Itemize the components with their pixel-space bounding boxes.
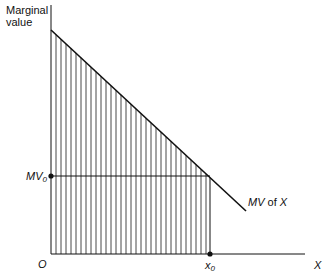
origin-label: O <box>38 258 47 270</box>
y-axis-label: Marginal value <box>6 4 48 28</box>
mv0-label: MV0 <box>26 170 47 186</box>
mv-curve <box>51 30 246 211</box>
curve-label: MV of X <box>248 196 287 208</box>
y-axis-label-line2: value <box>6 16 48 28</box>
x0-point <box>207 251 212 256</box>
mv0-point <box>48 173 53 178</box>
x0-label: x0 <box>205 259 215 274</box>
diagram-canvas <box>0 0 330 274</box>
y-axis-label-line1: Marginal <box>6 4 48 16</box>
marginal-value-diagram: Marginal value MV0 O x0 X MV of X <box>0 0 330 274</box>
x-axis-label: X <box>314 259 321 271</box>
